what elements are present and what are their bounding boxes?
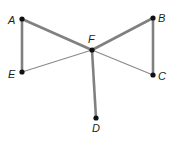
point-label-F: F	[88, 33, 96, 45]
segment-FB	[92, 18, 153, 50]
point-B	[150, 15, 155, 20]
point-F	[89, 47, 94, 52]
point-label-C: C	[158, 70, 166, 82]
point-label-B: B	[158, 12, 165, 24]
point-C	[150, 72, 155, 77]
segment-EF	[22, 50, 92, 72]
point-label-D: D	[92, 122, 100, 134]
segment-FC	[92, 50, 153, 75]
point-D	[93, 115, 98, 120]
point-label-A: A	[7, 14, 15, 26]
geometry-diagram: ABCDEF	[0, 0, 174, 156]
point-label-E: E	[8, 68, 16, 80]
segment-AF	[22, 19, 92, 50]
point-A	[19, 16, 24, 21]
point-E	[19, 69, 24, 74]
segment-FD	[92, 50, 96, 118]
